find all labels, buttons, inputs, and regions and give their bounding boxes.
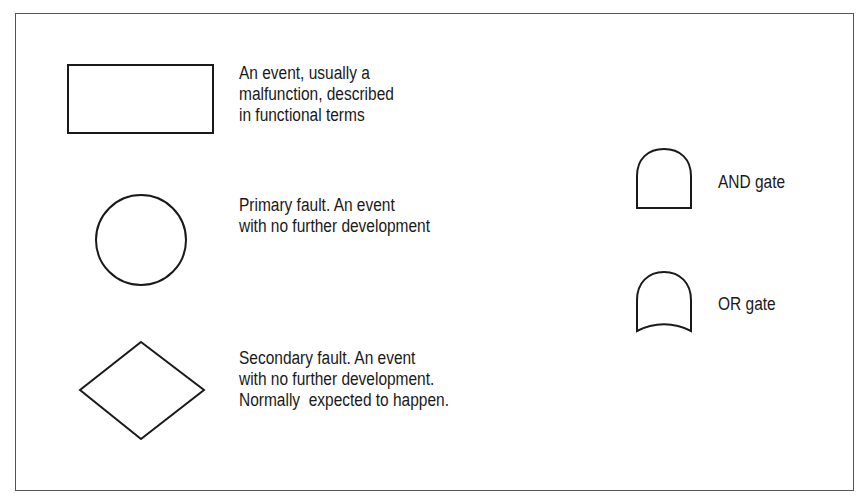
event-rectangle-icon	[68, 65, 213, 133]
secondary-fault-diamond-icon	[80, 342, 204, 439]
secondary-fault-line: Normally expected to happen.	[239, 390, 449, 411]
event-description-line: in functional terms	[239, 105, 394, 126]
symbols-layer	[0, 0, 868, 504]
primary-fault-circle-icon	[96, 195, 186, 285]
secondary-fault-line: with no further development.	[239, 369, 449, 390]
or-gate-text: OR gate	[718, 294, 776, 315]
and-gate-text: AND gate	[718, 172, 785, 193]
secondary-fault-line: Secondary fault. An event	[239, 348, 449, 369]
or-gate-label: OR gate	[718, 294, 776, 315]
primary-fault-line: Primary fault. An event	[239, 195, 430, 216]
and-gate-icon	[637, 149, 691, 208]
event-description-line: An event, usually a	[239, 63, 394, 84]
or-gate-icon	[637, 272, 691, 331]
primary-fault-description: Primary fault. An event with no further …	[239, 195, 430, 237]
event-description: An event, usually a malfunction, describ…	[239, 63, 394, 126]
event-description-line: malfunction, described	[239, 84, 394, 105]
secondary-fault-description: Secondary fault. An event with no furthe…	[239, 348, 449, 411]
primary-fault-line: with no further development	[239, 216, 430, 237]
and-gate-label: AND gate	[718, 172, 785, 193]
